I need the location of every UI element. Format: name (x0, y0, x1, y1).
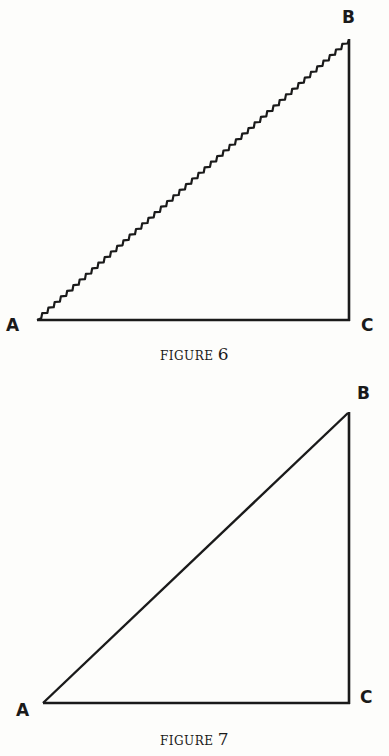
figure-7-hypotenuse (43, 413, 348, 703)
figure-7-caption: FIGURE 7 (0, 729, 389, 749)
figure-6-caption-word: FIGURE (160, 349, 214, 363)
figure-7-vertex-a-label: A (16, 702, 29, 719)
figure-6-caption-number: 6 (218, 344, 229, 364)
figure-7-caption-number: 7 (218, 729, 229, 749)
figure-6-vertex-a-label: A (6, 317, 19, 334)
figure-6-caption: FIGURE 6 (0, 344, 389, 364)
figure-7-vertex-b-label: B (357, 385, 370, 402)
figure-7-vertex-c-label: C (360, 689, 372, 706)
figure-6-vertex-c-label: C (361, 317, 373, 334)
diagram-canvas (0, 0, 389, 756)
figure-6-triangle (37, 39, 350, 321)
figure-7-triangle (43, 412, 350, 704)
figure-7-caption-word: FIGURE (160, 734, 214, 748)
figure-6-vertex-b-label: B (342, 9, 355, 26)
figure-6-hypotenuse-wavy (37, 40, 349, 320)
